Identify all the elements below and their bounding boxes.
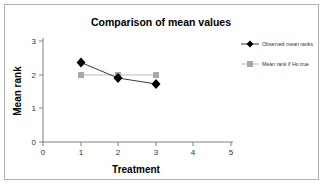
- y-tick-label: 2: [32, 71, 37, 80]
- data-point-marker: [77, 58, 86, 68]
- chart-frame: Comparison of mean values 3 2 1 0 0 1 2: [4, 4, 319, 180]
- legend-label: Mean rank if Ho true: [262, 61, 309, 67]
- legend-item-null-hypothesis: Mean rank if Ho true: [241, 61, 309, 67]
- y-tick-label: 3: [32, 37, 37, 46]
- square-marker-icon: [247, 61, 253, 67]
- diamond-marker-icon: [247, 41, 254, 48]
- chart-canvas: Comparison of mean values 3 2 1 0 0 1 2: [5, 5, 318, 179]
- y-axis-ticks: 3 2 1 0: [32, 37, 43, 147]
- y-axis-title: Mean rank: [12, 66, 23, 116]
- chart-title: Comparison of mean values: [91, 16, 231, 28]
- data-point-marker: [152, 79, 161, 89]
- y-tick-label: 0: [32, 138, 37, 147]
- x-axis-title: Treatment: [112, 164, 160, 175]
- chart-legend: Observed mean ranks Mean rank if Ho true: [241, 41, 313, 68]
- x-tick-label: 4: [191, 148, 196, 157]
- legend-label: Observed mean ranks: [262, 41, 313, 47]
- y-tick-label: 1: [32, 104, 37, 113]
- x-tick-label: 1: [79, 148, 84, 157]
- data-point-marker: [78, 72, 84, 78]
- data-point-marker: [153, 72, 159, 78]
- x-axis-ticks: 0 1 2 3 4 5: [41, 142, 234, 157]
- x-tick-label: 2: [116, 148, 121, 157]
- x-tick-label: 3: [154, 148, 159, 157]
- legend-item-observed: Observed mean ranks: [241, 41, 313, 48]
- x-tick-label: 0: [41, 148, 46, 157]
- x-tick-label: 5: [229, 148, 234, 157]
